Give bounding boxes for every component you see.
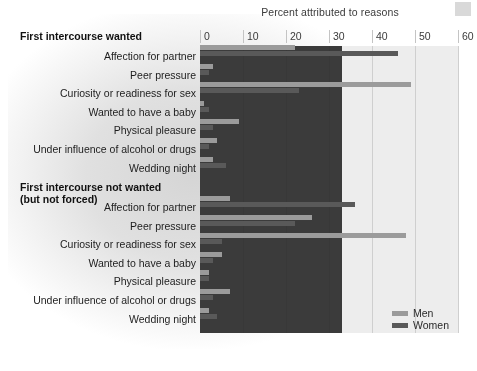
- gridline-60: [458, 46, 459, 333]
- bar-p1-0-women: [200, 202, 355, 207]
- x-tick-rule: [243, 30, 244, 43]
- legend-item-women: Women: [392, 319, 449, 331]
- gridline-30: [329, 46, 330, 333]
- bar-p0-3-men: [200, 101, 204, 106]
- category-label-0-6: Wedding night: [129, 162, 196, 174]
- bar-p0-1-women: [200, 70, 209, 75]
- x-tick-label-0: 0: [204, 30, 210, 42]
- bar-p0-2-men: [200, 82, 411, 87]
- bar-p0-2-women: [200, 88, 299, 93]
- x-tick-rule: [458, 30, 459, 43]
- bar-p1-6-men: [200, 308, 209, 313]
- bar-p0-6-women: [200, 163, 226, 168]
- category-label-0-5: Under influence of alcohol or drugs: [33, 143, 196, 155]
- x-axis-ticks: 0102030405060: [200, 30, 458, 44]
- category-label-1-1: Peer pressure: [130, 220, 196, 232]
- x-tick-rule: [329, 30, 330, 43]
- x-tick-label-20: 20: [290, 30, 302, 42]
- bar-p0-5-women: [200, 144, 209, 149]
- bar-p1-0-men: [200, 196, 230, 201]
- category-label-1-3: Wanted to have a baby: [88, 257, 196, 269]
- bar-p0-0-women: [200, 51, 398, 56]
- bar-p1-3-men: [200, 252, 222, 257]
- bar-p1-1-women: [200, 221, 295, 226]
- panel-heading-not-wanted-line1: First intercourse not wanted: [20, 181, 161, 193]
- category-label-1-6: Wedding night: [129, 313, 196, 325]
- gridline-50: [415, 46, 416, 333]
- category-label-0-1: Peer pressure: [130, 69, 196, 81]
- category-label-0-2: Curiosity or readiness for sex: [60, 87, 196, 99]
- legend-label-women: Women: [413, 319, 449, 331]
- category-label-0-4: Physical pleasure: [114, 124, 196, 136]
- bar-p1-4-men: [200, 270, 209, 275]
- category-label-0-3: Wanted to have a baby: [88, 106, 196, 118]
- category-label-1-0: Affection for partner: [104, 201, 196, 213]
- bar-p0-1-men: [200, 64, 213, 69]
- x-tick-label-10: 10: [247, 30, 259, 42]
- legend-label-men: Men: [413, 307, 433, 319]
- category-label-1-5: Under influence of alcohol or drugs: [33, 294, 196, 306]
- x-tick-rule: [372, 30, 373, 43]
- bar-p0-4-women: [200, 125, 213, 130]
- bar-p1-6-women: [200, 314, 217, 319]
- bar-p1-5-women: [200, 295, 213, 300]
- bar-p0-3-women: [200, 107, 209, 112]
- legend-item-men: Men: [392, 307, 449, 319]
- bar-p0-6-men: [200, 157, 213, 162]
- bar-p1-2-women: [200, 239, 222, 244]
- gridline-40: [372, 46, 373, 333]
- bar-p1-4-women: [200, 276, 209, 281]
- chart-legend: Men Women: [392, 307, 449, 331]
- x-tick-label-60: 60: [462, 30, 474, 42]
- bar-p0-5-men: [200, 138, 217, 143]
- x-tick-label-50: 50: [419, 30, 431, 42]
- x-tick-label-40: 40: [376, 30, 388, 42]
- category-label-1-2: Curiosity or readiness for sex: [60, 238, 196, 250]
- bar-p0-4-men: [200, 119, 239, 124]
- bar-p1-3-women: [200, 258, 213, 263]
- x-tick-rule: [286, 30, 287, 43]
- panel-heading-wanted: First intercourse wanted: [20, 30, 142, 42]
- x-tick-rule: [415, 30, 416, 43]
- x-tick-label-30: 30: [333, 30, 345, 42]
- bar-p1-1-men: [200, 215, 312, 220]
- legend-swatch-women-icon: [392, 323, 408, 328]
- axis-title: Percent attributed to reasons: [200, 6, 460, 18]
- legend-swatch-men-icon: [392, 311, 408, 316]
- category-label-0-0: Affection for partner: [104, 50, 196, 62]
- category-label-1-4: Physical pleasure: [114, 275, 196, 287]
- x-tick-rule: [200, 30, 201, 43]
- bar-p1-5-men: [200, 289, 230, 294]
- chart-figure: Percent attributed to reasons First inte…: [0, 0, 477, 371]
- bar-p1-2-men: [200, 233, 406, 238]
- bar-p0-0-men: [200, 45, 295, 50]
